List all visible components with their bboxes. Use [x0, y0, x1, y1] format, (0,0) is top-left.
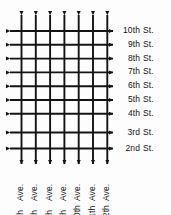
- avenue-label-12th: 12thAve.: [102, 184, 111, 215]
- avenue-label-suffix: Ave.: [102, 184, 111, 201]
- street-label-number: 2nd: [120, 144, 140, 153]
- street-label-suffix: St.: [143, 40, 154, 49]
- street-label-number: 9th: [120, 40, 140, 49]
- diagram-canvas: 10thSt.9thSt.8thSt.7thSt.6thSt.5thSt.4th…: [0, 0, 171, 215]
- street-label-number: 4th: [120, 109, 140, 118]
- street-label-suffix: St.: [143, 81, 154, 90]
- avenue-label-number: 11th: [88, 203, 97, 215]
- street-label-suffix: St.: [143, 144, 154, 153]
- street-label-number: 3rd: [120, 128, 140, 137]
- avenue-label-number: 10th: [73, 203, 82, 215]
- street-label-9th: 9thSt.: [120, 40, 154, 49]
- street-label-3rd: 3rdSt.: [120, 128, 154, 137]
- street-label-number: 8th: [120, 54, 140, 63]
- street-label-suffix: St.: [143, 109, 154, 118]
- avenue-label-10th: 10thAve.: [73, 184, 82, 215]
- avenue-label-6th: 6thAve.: [16, 184, 25, 215]
- street-label-number: 5th: [120, 95, 140, 104]
- street-label-suffix: St.: [143, 26, 154, 35]
- avenue-label-suffix: Ave.: [88, 184, 97, 201]
- street-label-number: 7th: [120, 67, 140, 76]
- avenue-label-8th: 8thAve.: [45, 184, 54, 215]
- avenue-label-number: 9th: [59, 203, 68, 215]
- street-label-suffix: St.: [143, 95, 154, 104]
- street-label-4th: 4thSt.: [120, 109, 154, 118]
- street-label-suffix: St.: [143, 67, 154, 76]
- street-label-suffix: St.: [143, 54, 154, 63]
- avenue-label-suffix: Ave.: [45, 184, 54, 201]
- avenue-label-number: 8th: [45, 203, 54, 215]
- avenue-label-7th: 7thAve.: [30, 184, 39, 215]
- avenue-label-suffix: Ave.: [30, 184, 39, 201]
- street-label-2nd: 2ndSt.: [120, 144, 154, 153]
- street-label-6th: 6thSt.: [120, 81, 154, 90]
- street-label-7th: 7thSt.: [120, 67, 154, 76]
- street-label-8th: 8thSt.: [120, 54, 154, 63]
- street-label-suffix: St.: [143, 128, 154, 137]
- street-label-number: 10th: [120, 26, 140, 35]
- street-label-5th: 5thSt.: [120, 95, 154, 104]
- avenue-label-9th: 9thAve.: [59, 184, 68, 215]
- avenue-label-number: 12th: [102, 203, 111, 215]
- avenue-label-11th: 11thAve.: [88, 184, 97, 215]
- avenue-label-number: 6th: [16, 203, 25, 215]
- avenue-label-suffix: Ave.: [16, 184, 25, 201]
- street-lines-group: [10, 31, 113, 149]
- avenue-label-number: 7th: [30, 203, 39, 215]
- avenue-lines-group: [22, 15, 108, 164]
- avenue-label-suffix: Ave.: [73, 184, 82, 201]
- street-label-10th: 10thSt.: [120, 26, 154, 35]
- avenue-label-suffix: Ave.: [59, 184, 68, 201]
- street-label-number: 6th: [120, 81, 140, 90]
